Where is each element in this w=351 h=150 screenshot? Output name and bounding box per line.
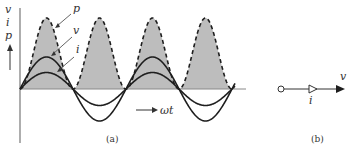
caption-b: (b) xyxy=(311,134,324,144)
caption-a: (a) xyxy=(106,134,118,144)
y-axis-label-i: i xyxy=(6,16,10,29)
figure: v i p p v i ωt (a) xyxy=(0,0,351,150)
label-p: p xyxy=(73,2,80,15)
power-curve-fill xyxy=(20,18,234,89)
phasor-label-v: v xyxy=(340,70,347,83)
voltage-phasor-arrow-icon xyxy=(336,85,345,93)
label-v: v xyxy=(73,24,80,37)
origin-circle-icon xyxy=(278,86,284,92)
leader-arrow-p-icon xyxy=(55,14,71,28)
current-phasor-arrow-icon xyxy=(309,85,317,93)
y-axis-label-v: v xyxy=(5,3,12,16)
y-axis-label-p: p xyxy=(5,29,12,42)
y-axis-up-arrow-icon xyxy=(7,44,13,70)
panel-a-waveforms: v i p p v i ωt (a) xyxy=(5,2,246,144)
x-axis-direction-arrow-icon xyxy=(136,107,158,113)
x-axis-label: ωt xyxy=(160,104,174,117)
label-i: i xyxy=(76,43,80,56)
panel-b-phasor: i v (b) xyxy=(278,70,347,144)
phasor-label-i: i xyxy=(309,94,313,107)
